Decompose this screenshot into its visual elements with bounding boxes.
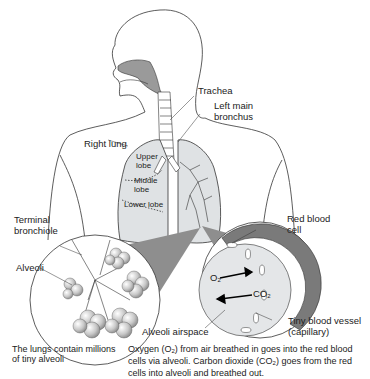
label-terminal-bronchiole: Terminal bronchiole [14,214,58,236]
label-o2-sub: 2 [217,277,220,283]
label-left-main-bronchus-line2: bronchus [214,111,253,122]
label-alveoli: Alveoli [16,262,44,273]
label-terminal-bronchiole-line1: Terminal [14,214,58,225]
label-middle-lobe-line2: lobe [134,185,158,194]
caption-right: Oxygen (O2) from air breathed in goes in… [128,344,352,378]
label-middle-lobe: Middle lobe [134,176,158,194]
label-o2: O2 [210,272,221,286]
label-trachea: Trachea [198,85,233,96]
label-red-blood-cell-line1: Red blood [287,213,330,224]
label-upper-lobe-line2: lobe [136,161,158,170]
caption-left-line1: The lungs contain millions [12,344,116,354]
caption-left-line2: of tiny alveoli [12,354,116,364]
label-tiny-blood-vessel-line2: (capillary) [288,326,361,337]
label-tiny-blood-vessel-line1: Tiny blood vessel [288,315,361,326]
alveoli-airspace [199,244,291,336]
label-upper-lobe-line1: Upper [136,152,158,161]
upper-airway [118,60,163,96]
caption-right-line1: Oxygen (O2) from air breathed in goes in… [128,344,352,356]
label-lower-lobe: Lower lobe [124,200,163,209]
label-alveoli-airspace: Alveoli airspace [142,326,209,337]
label-tiny-blood-vessel: Tiny blood vessel (capillary) [288,315,361,337]
label-left-main-bronchus: Left main bronchus [214,100,253,122]
label-red-blood-cell-line2: cell [287,224,330,235]
label-upper-lobe: Upper lobe [136,152,158,170]
left-lung [178,140,221,243]
label-co2-text: CO [253,288,267,299]
label-terminal-bronchiole-line2: bronchiole [14,225,58,236]
label-co2-sub: 2 [267,293,270,299]
label-right-lung: Right lung [84,138,127,149]
label-red-blood-cell: Red blood cell [287,213,330,235]
label-left-main-bronchus-line1: Left main [214,100,253,111]
caption-left: The lungs contain millions of tiny alveo… [12,344,116,364]
caption-right-line2: cells via alveoli. Carbon dioxide (CO2) … [128,356,352,368]
label-co2: CO2 [253,288,271,302]
label-middle-lobe-line1: Middle [134,176,158,185]
caption-right-line3: cells into alveoli and breathed out. [128,368,352,378]
